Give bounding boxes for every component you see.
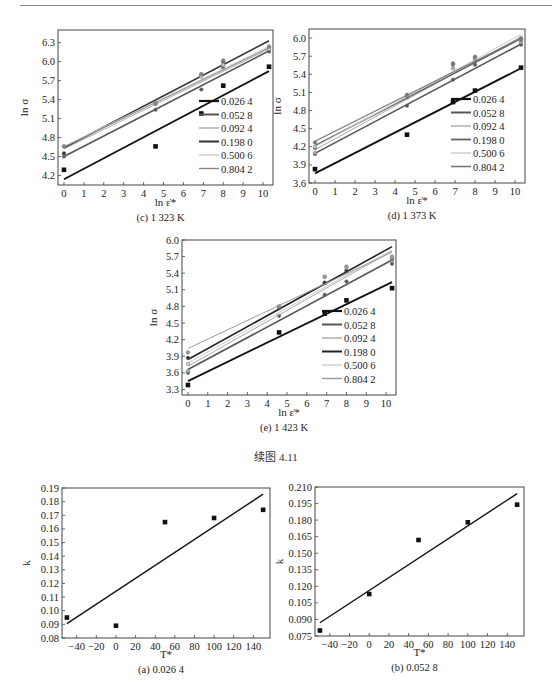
y-axis-label: k xyxy=(20,560,32,566)
data-point xyxy=(163,520,168,525)
data-point xyxy=(345,265,349,269)
y-tick-label: 3.6 xyxy=(293,178,306,189)
y-tick-label: 0.11 xyxy=(41,592,59,603)
y-tick-label: 0.090 xyxy=(288,614,312,625)
y-tick-label: 0.075 xyxy=(288,631,312,642)
y-tick-label: 0.150 xyxy=(288,548,312,559)
y-tick-label: 0.105 xyxy=(288,597,312,608)
plot-frame xyxy=(182,240,396,395)
x-tick-label: 0 xyxy=(185,398,190,409)
data-point xyxy=(186,351,190,355)
y-tick-label: 6.0 xyxy=(166,235,179,246)
y-tick-label: 5.1 xyxy=(166,284,179,295)
y-tick-label: 0.18 xyxy=(41,496,59,507)
data-point xyxy=(186,369,190,373)
x-axis-label: ln ε̇* xyxy=(278,406,299,418)
x-tick-label: 0 xyxy=(113,641,118,652)
data-point xyxy=(416,538,421,543)
chart-d-group: 0123456789103.63.94.24.54.85.15.45.76.0l… xyxy=(271,29,525,222)
data-point xyxy=(313,151,317,155)
data-point xyxy=(154,108,158,112)
y-axis-label: ln σ xyxy=(18,99,30,116)
y-tick-label: 4.2 xyxy=(293,141,306,152)
x-tick-label: 8 xyxy=(344,398,349,409)
x-tick-label: 6 xyxy=(181,188,186,199)
x-tick-label: 4 xyxy=(141,188,147,199)
y-tick-label: 6.0 xyxy=(42,56,55,67)
x-axis-label: T* xyxy=(413,646,425,658)
x-tick-label: 10 xyxy=(510,186,521,197)
legend-label: 0.804 2 xyxy=(221,164,253,175)
data-point xyxy=(466,520,471,525)
data-point xyxy=(62,145,66,149)
x-tick-label: 9 xyxy=(241,188,246,199)
x-tick-label: 8 xyxy=(221,188,226,199)
data-point xyxy=(344,298,349,303)
data-point xyxy=(451,66,455,70)
x-tick-label: 20 xyxy=(384,639,395,650)
x-tick-label: 2 xyxy=(225,398,230,409)
y-axis-label: ln σ xyxy=(271,97,283,114)
data-point xyxy=(390,255,394,259)
data-point xyxy=(65,615,70,620)
figure-caption: 续图 4.11 xyxy=(0,448,552,464)
x-tick-label: 0 xyxy=(61,188,66,199)
data-point xyxy=(519,65,524,70)
x-tick-label: 3 xyxy=(121,188,126,199)
y-tick-label: 0.19 xyxy=(41,483,59,494)
data-point xyxy=(267,45,271,49)
data-point xyxy=(390,286,395,291)
x-axis-label: ln ε̇* xyxy=(155,196,176,208)
chart-b-group: −40−200204060801001201400.0750.0900.1050… xyxy=(273,482,524,675)
x-tick-label: 2 xyxy=(101,188,106,199)
data-point xyxy=(451,100,456,105)
fit-line-k xyxy=(320,494,517,623)
legend-label: 0.092 4 xyxy=(344,333,376,344)
x-tick-label: 1 xyxy=(332,186,337,197)
data-point xyxy=(318,628,323,633)
y-tick-label: 0.17 xyxy=(41,510,59,521)
y-tick-label: 0.210 xyxy=(288,482,312,493)
x-tick-label: 4 xyxy=(265,398,271,409)
x-tick-label: 8 xyxy=(472,186,477,197)
legend-label: 0.198 0 xyxy=(221,137,253,148)
y-tick-label: 3.3 xyxy=(166,384,179,395)
y-tick-label: 3.9 xyxy=(293,159,306,170)
x-tick-label: 40 xyxy=(150,641,161,652)
y-tick-label: 3.9 xyxy=(166,351,179,362)
legend-label: 0.052 8 xyxy=(344,320,376,331)
y-tick-label: 0.195 xyxy=(288,498,312,509)
data-point xyxy=(323,275,327,279)
y-tick-label: 0.14 xyxy=(41,551,60,562)
legend-label: 0.500 6 xyxy=(221,150,253,161)
y-tick-label: 4.8 xyxy=(166,301,179,312)
data-point xyxy=(473,55,477,59)
y-tick-label: 5.1 xyxy=(293,87,306,98)
y-tick-label: 0.16 xyxy=(41,523,59,534)
data-point xyxy=(267,64,272,69)
plot-frame xyxy=(58,30,273,185)
data-point xyxy=(62,152,66,156)
legend-label: 0.500 6 xyxy=(473,148,505,159)
y-tick-label: 0.135 xyxy=(288,564,312,575)
x-axis-label: ln ε̇* xyxy=(406,194,427,206)
y-tick-label: 0.180 xyxy=(288,515,312,526)
legend-label: 0.092 4 xyxy=(473,121,505,132)
data-point xyxy=(221,59,225,63)
x-tick-label: −20 xyxy=(341,639,357,650)
x-tick-label: 1 xyxy=(205,398,210,409)
x-tick-label: 2 xyxy=(352,186,357,197)
legend-label: 0.500 6 xyxy=(344,360,376,371)
data-point xyxy=(515,502,520,507)
legend-label: 0.026 4 xyxy=(221,96,253,107)
x-tick-label: 80 xyxy=(189,641,200,652)
data-point xyxy=(473,88,478,93)
data-point xyxy=(186,362,190,366)
x-tick-label: 1 xyxy=(81,188,86,199)
legend-label: 0.804 2 xyxy=(344,374,376,385)
y-tick-label: 5.1 xyxy=(42,113,55,124)
x-axis-label: T* xyxy=(160,648,172,660)
data-point xyxy=(277,305,281,309)
x-tick-label: 9 xyxy=(364,398,369,409)
y-tick-label: 5.7 xyxy=(166,251,179,262)
